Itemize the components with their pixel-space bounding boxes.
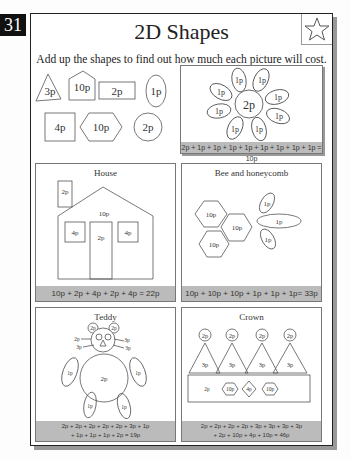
- bee-equation: 10p + 10p + 10p + 1p + 1p + 1p= 33p: [182, 286, 321, 301]
- svg-text:10p: 10p: [93, 121, 110, 133]
- svg-text:1p: 1p: [87, 403, 93, 409]
- svg-text:4p: 4p: [246, 386, 252, 392]
- svg-text:2p: 2p: [287, 332, 294, 339]
- svg-text:1p: 1p: [215, 107, 223, 116]
- svg-text:2p: 2p: [229, 332, 236, 339]
- page-title: 2D Shapes: [31, 19, 332, 45]
- svg-text:1p: 1p: [235, 76, 243, 85]
- svg-text:2p: 2p: [74, 336, 80, 342]
- instructions: Add up the shapes to find out how much e…: [31, 53, 332, 65]
- crown-panel: Crown 2p2p 2p2p 3p3p 3p3p 2p: [181, 307, 322, 442]
- svg-text:2p: 2p: [111, 325, 117, 331]
- svg-text:1p: 1p: [274, 93, 282, 102]
- svg-text:2p: 2p: [202, 332, 209, 339]
- svg-text:1p: 1p: [135, 370, 141, 376]
- svg-text:3p: 3p: [229, 361, 236, 368]
- flower-panel: 1p1p 1p1p 1p1p 1p1p 2p 2p + 1p + 1p + 1p…: [180, 65, 323, 154]
- rectangle-shape: 2p: [99, 82, 135, 99]
- svg-text:3p: 3p: [287, 361, 294, 368]
- crown-equation: 2p + 2p + 2p + 2p + 3p + 3p + 3p + 3p + …: [182, 421, 321, 441]
- hexagon-shape: 10p: [80, 113, 122, 141]
- svg-text:10p: 10p: [74, 81, 91, 93]
- svg-text:3p: 3p: [45, 85, 57, 97]
- svg-text:2p: 2p: [143, 121, 155, 133]
- svg-text:2p: 2p: [243, 98, 255, 112]
- flower-drawing: 1p1p 1p1p 1p1p 1p1p 2p: [181, 66, 322, 141]
- svg-text:3p: 3p: [259, 361, 266, 368]
- svg-text:2p: 2p: [259, 332, 266, 339]
- house-equation: 10p + 2p + 4p + 2p + 4p = 22p: [36, 286, 175, 301]
- worksheet: 2D Shapes Add up the shapes to find out …: [30, 13, 333, 446]
- teddy-equation-line2: + 1p + 1p + 1p + 2p = 19p: [36, 431, 175, 440]
- svg-text:3p: 3p: [202, 361, 209, 368]
- teddy-equation-line1: 2p + 2p + 2p + 2p + 2p + 3p + 1p: [36, 422, 175, 431]
- circle-shape: 2p: [134, 113, 162, 141]
- page-number: 31: [0, 14, 26, 36]
- svg-text:2p: 2p: [98, 234, 106, 242]
- svg-text:10p: 10p: [209, 241, 220, 249]
- crown-drawing: 2p2p 2p2p 3p3p 3p3p 2p 10p 4p 10p: [182, 308, 321, 420]
- house-panel: House 2p 10p 4p 2p 4p 10p + 2p + 4p + 2p…: [35, 163, 176, 302]
- svg-text:10p: 10p: [226, 386, 235, 392]
- svg-text:10p: 10p: [232, 224, 243, 232]
- svg-text:10p: 10p: [266, 386, 275, 392]
- svg-text:2p: 2p: [90, 325, 96, 331]
- teddy-panel: Teddy 2p2p 2p3p 3p3p 1p1p: [35, 307, 176, 442]
- svg-text:10p: 10p: [99, 210, 110, 218]
- svg-text:2p: 2p: [62, 188, 70, 196]
- svg-text:1p: 1p: [265, 236, 273, 244]
- svg-text:4p: 4p: [55, 121, 67, 133]
- flower-equation: 2p + 1p + 1p + 1p + 1p + 1p + 1p + 1p + …: [181, 142, 322, 153]
- pentagon-shape: 10p: [69, 71, 95, 100]
- crown-equation-line1: 2p + 2p + 2p + 2p + 3p + 3p + 3p + 3p: [182, 422, 321, 431]
- svg-text:1p: 1p: [231, 125, 239, 134]
- crown-equation-line2: + 2p + 10p + 4p + 10p = 46p: [182, 431, 321, 440]
- star-outline-icon: [301, 14, 332, 45]
- teddy-equation: 2p + 2p + 2p + 2p + 2p + 3p + 1p + 1p + …: [36, 421, 175, 441]
- bee-panel: Bee and honeycomb 10p 10p 10p 1p 1p 1p 1…: [181, 163, 322, 302]
- svg-text:1p: 1p: [217, 88, 225, 97]
- svg-text:2p: 2p: [101, 375, 109, 383]
- bee-drawing: 10p 10p 10p 1p 1p 1p: [182, 164, 321, 286]
- house-drawing: 2p 10p 4p 2p 4p: [36, 164, 175, 286]
- square-shape: 4p: [45, 113, 75, 141]
- svg-text:1p: 1p: [275, 112, 283, 121]
- svg-text:1p: 1p: [264, 200, 272, 208]
- svg-text:1p: 1p: [255, 125, 263, 134]
- svg-text:4p: 4p: [125, 229, 133, 237]
- teddy-drawing: 2p2p 2p3p 3p3p 1p1p 1p1p 2p: [36, 308, 175, 420]
- svg-text:2p: 2p: [112, 85, 124, 97]
- svg-text:3p: 3p: [124, 337, 130, 343]
- svg-text:1p: 1p: [258, 76, 266, 85]
- svg-text:1p: 1p: [121, 404, 127, 410]
- svg-text:2p: 2p: [204, 386, 210, 392]
- svg-text:10p: 10p: [206, 211, 217, 219]
- oval-shape: 1p: [146, 75, 166, 107]
- svg-text:4p: 4p: [72, 229, 80, 237]
- svg-text:3p: 3p: [76, 344, 82, 350]
- price-key: 3p 10p 2p 1p 4p 10p 2p: [31, 69, 181, 149]
- svg-text:3p: 3p: [125, 345, 131, 351]
- triangle-shape: 3p: [36, 74, 61, 101]
- svg-text:1p: 1p: [151, 85, 163, 97]
- svg-text:1p: 1p: [276, 218, 284, 226]
- svg-text:1p: 1p: [67, 370, 73, 376]
